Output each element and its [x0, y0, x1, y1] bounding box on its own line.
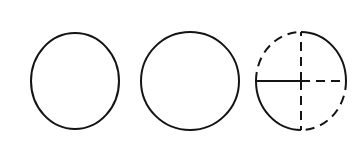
circle-1-group — [31, 33, 119, 129]
circle-3-arc-top-right — [301, 32, 346, 81]
circle-2-outline — [141, 32, 239, 130]
circle-3-arc-bottom-left — [256, 81, 301, 130]
circle-3-group — [256, 32, 346, 130]
figure-container — [0, 0, 356, 144]
circle-3-arc-bottom-right — [301, 81, 346, 130]
circle-2-group — [141, 32, 239, 130]
circles-diagram — [0, 0, 356, 144]
circle-3-arc-top-left — [256, 32, 301, 81]
circle-1-outline — [31, 33, 119, 129]
